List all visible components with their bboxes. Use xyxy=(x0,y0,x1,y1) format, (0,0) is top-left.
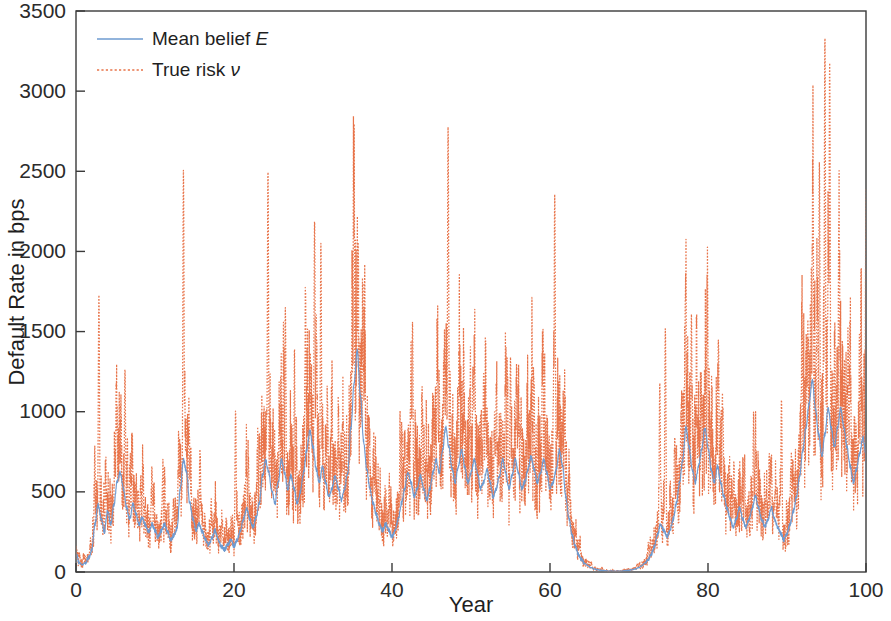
plot-svg: 0500100015002000250030003500 02040608010… xyxy=(0,0,891,621)
x-tick-label: 60 xyxy=(538,578,561,601)
y-tick-label: 2500 xyxy=(19,159,66,182)
legend-label-mean-belief: Mean belief E xyxy=(152,28,269,49)
y-tick-label: 0 xyxy=(54,560,66,583)
x-axis-title: Year xyxy=(449,592,493,617)
y-tick-label: 3000 xyxy=(19,79,66,102)
x-tick-label: 100 xyxy=(848,578,883,601)
y-tick-label: 3500 xyxy=(19,0,66,22)
y-tick-label: 1000 xyxy=(19,399,66,422)
y-axis-title: Default Rate in bps xyxy=(4,198,29,385)
x-tick-label: 80 xyxy=(696,578,719,601)
x-tick-label: 0 xyxy=(70,578,82,601)
chart-figure: 0500100015002000250030003500 02040608010… xyxy=(0,0,891,621)
legend-label-true-risk: True risk ν xyxy=(152,59,240,80)
x-tick-label: 40 xyxy=(380,578,403,601)
x-tick-label: 20 xyxy=(222,578,245,601)
y-tick-label: 500 xyxy=(31,479,66,502)
